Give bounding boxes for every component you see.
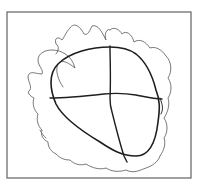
sketch-canvas	[0, 0, 201, 188]
